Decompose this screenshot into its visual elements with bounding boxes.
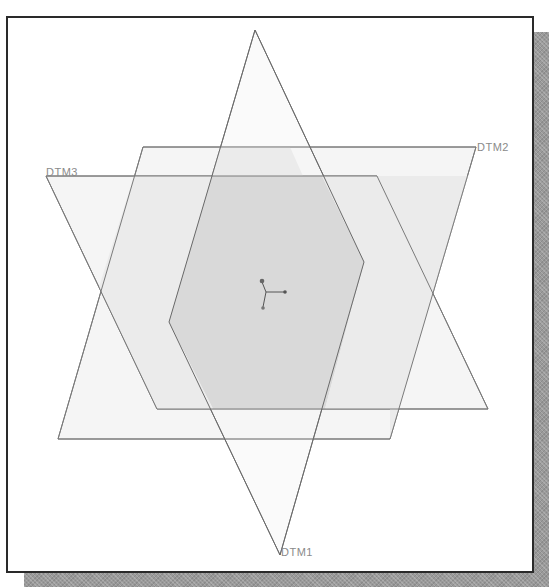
dtm1-label: DTM1 [281, 546, 313, 558]
overlap-dtm1-dtm2 [212, 147, 303, 176]
dtm2-label: DTM2 [477, 141, 509, 153]
dtm3-label: DTM3 [46, 166, 78, 178]
datum-planes-scene: DTM3 DTM2 DTM1 [0, 0, 557, 587]
